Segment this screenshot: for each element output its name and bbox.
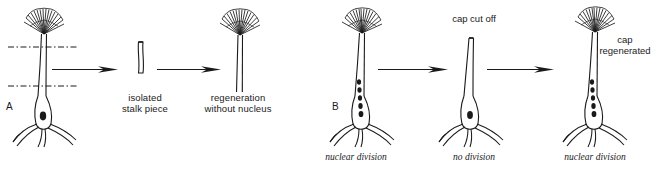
- isolated-stalk-segment: [138, 42, 143, 73]
- stalk-outline-right: [473, 38, 474, 96]
- nucleus-icon: [358, 103, 362, 109]
- caption-regeneration-line1: regeneration: [188, 92, 288, 104]
- caption-nuclear-division-first: nuclear division: [296, 152, 416, 162]
- nucleus-icon: [40, 112, 46, 121]
- nucleus-icon: [592, 111, 597, 117]
- nucleus-icon: [590, 79, 594, 85]
- nucleus-icon: [357, 79, 361, 85]
- caption-no-division: no division: [424, 152, 524, 162]
- nucleus-icon: [591, 103, 595, 109]
- label-cap-regenerated-line1: cap: [594, 34, 656, 46]
- nucleus-icon: [591, 95, 595, 101]
- panel-letter-b: B: [332, 101, 339, 112]
- panel-a-isolated-stalk: [138, 42, 143, 73]
- label-cap-cut-off: cap cut off: [421, 13, 527, 25]
- panel-letter-a: A: [6, 101, 13, 112]
- nucleus-icon: [359, 111, 364, 117]
- caption-nuclear-division-second: nuclear division: [535, 152, 655, 162]
- nucleus-icon: [590, 87, 594, 93]
- nucleus-icon: [467, 111, 473, 119]
- caption-isolated-stalk-line2: stalk piece: [105, 103, 185, 115]
- nucleus-icon: [357, 87, 361, 93]
- caption-regeneration-line2: without nucleus: [188, 103, 288, 115]
- caption-isolated-stalk-line1: isolated: [105, 92, 185, 104]
- stalk-outline-right: [46, 34, 47, 96]
- stalk-outline-right: [364, 33, 365, 96]
- label-cap-regenerated-line2: regenerated: [592, 45, 658, 57]
- nucleus-icon: [358, 95, 362, 101]
